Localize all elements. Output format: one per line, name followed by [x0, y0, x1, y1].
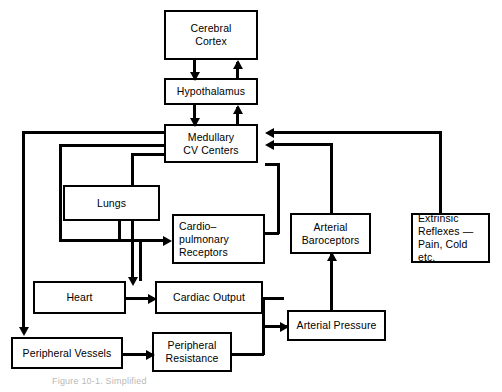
node-cardiac-output[interactable]: Cardiac Output	[155, 281, 263, 314]
connector-cardiopulmonary-to-medullary-h	[59, 144, 167, 147]
connector-extrinsic-to-medullary-v	[439, 131, 442, 213]
node-peripheral-resistance-label: PeripheralResistance	[154, 339, 230, 365]
arrowhead-hypothalamus-to-cortex	[233, 60, 243, 69]
connector-medullary-out-heart-h	[131, 153, 167, 156]
node-arterial-pressure[interactable]: Arterial Pressure	[287, 310, 386, 341]
node-cardiopulmonary-receptors-label: Cardio–pulmonaryReceptors	[174, 220, 263, 259]
figure-caption: Figure 10-1. Simplified	[52, 376, 147, 386]
node-arterial-pressure-label: Arterial Pressure	[289, 319, 384, 332]
connector-resistance-v	[262, 325, 265, 355]
node-cerebral-cortex[interactable]: CerebralCortex	[164, 10, 258, 60]
connector-medullary-out-vessels-v	[22, 131, 25, 331]
node-hypothalamus[interactable]: Hypothalamus	[164, 78, 258, 105]
connector-lungs-down	[118, 221, 121, 241]
node-peripheral-vessels-label: Peripheral Vessels	[13, 347, 121, 360]
node-peripheral-resistance[interactable]: PeripheralResistance	[152, 332, 232, 372]
arrowhead-medullary-to-hypothalamus	[233, 105, 243, 114]
arrowhead-heart-to-cardiac-output	[148, 294, 157, 304]
node-extrinsic-reflexes[interactable]: ExtrinsicReflexes —Pain, Cold etc.	[411, 213, 490, 263]
node-arterial-baroceptors[interactable]: ArterialBaroceptors	[290, 213, 371, 254]
connector-extrinsic-to-medullary-h	[272, 131, 441, 134]
connector-medullary-out-vessels-h	[22, 131, 167, 134]
connector-medullary-to-cardiopulmonary-h	[265, 232, 279, 235]
node-medullary-cv-centers[interactable]: MedullaryCV Centers	[164, 124, 258, 163]
connector-cardiac-output-h	[262, 297, 284, 300]
connector-cardiopulmonary-to-medullary-v	[59, 144, 62, 241]
node-cerebral-cortex-label: CerebralCortex	[166, 22, 256, 48]
arrowhead-to-arterial-pressure	[280, 322, 289, 332]
arrowhead-vessels-to-resistance	[146, 350, 155, 360]
node-cardiac-output-label: Cardiac Output	[157, 291, 261, 304]
connector-heart-to-cardiopulmonary-v	[139, 239, 142, 281]
arrowhead-medullary-to-peripheral-vessels	[19, 327, 29, 336]
connector-baroceptors-to-medullary-v	[330, 143, 333, 213]
node-lungs-label: Lungs	[65, 197, 158, 210]
diagram-canvas: CerebralCortex Hypothalamus MedullaryCV …	[0, 0, 502, 392]
node-heart-label: Heart	[35, 291, 124, 304]
connector-cardiopulmonary-feed-h	[59, 239, 119, 242]
arrowhead-cortex-to-hypothalamus	[190, 72, 200, 81]
connector-resistance-h	[231, 353, 264, 356]
node-lungs[interactable]: Lungs	[63, 185, 160, 221]
arrowhead-hypothalamus-to-medullary	[190, 118, 200, 127]
arrowhead-baroceptors-to-medullary	[265, 140, 274, 150]
node-cardiopulmonary-receptors[interactable]: Cardio–pulmonaryReceptors	[172, 214, 265, 264]
node-heart[interactable]: Heart	[33, 281, 126, 314]
arrowhead-pressure-to-baroceptors	[327, 252, 337, 261]
arrowhead-medullary-to-heart	[128, 277, 138, 286]
node-hypothalamus-label: Hypothalamus	[166, 85, 256, 98]
node-medullary-cv-centers-label: MedullaryCV Centers	[166, 131, 256, 157]
connector-medullary-to-cardiopulmonary-v	[277, 163, 280, 234]
node-arterial-baroceptors-label: ArterialBaroceptors	[292, 221, 369, 247]
arrowhead-extrinsic-to-medullary	[265, 128, 274, 138]
arrowhead-lungs-to-cardiopulmonary	[163, 236, 172, 246]
connector-medullary-to-cardiopulmonary-stub	[265, 163, 279, 166]
connector-baroceptors-to-medullary-h	[272, 143, 332, 146]
connector-pressure-to-baroceptors	[330, 254, 333, 310]
node-extrinsic-reflexes-label: ExtrinsicReflexes —Pain, Cold etc.	[413, 212, 488, 264]
connector-lungs-to-cardiopulmonary	[118, 239, 166, 242]
node-peripheral-vessels[interactable]: Peripheral Vessels	[11, 337, 123, 369]
